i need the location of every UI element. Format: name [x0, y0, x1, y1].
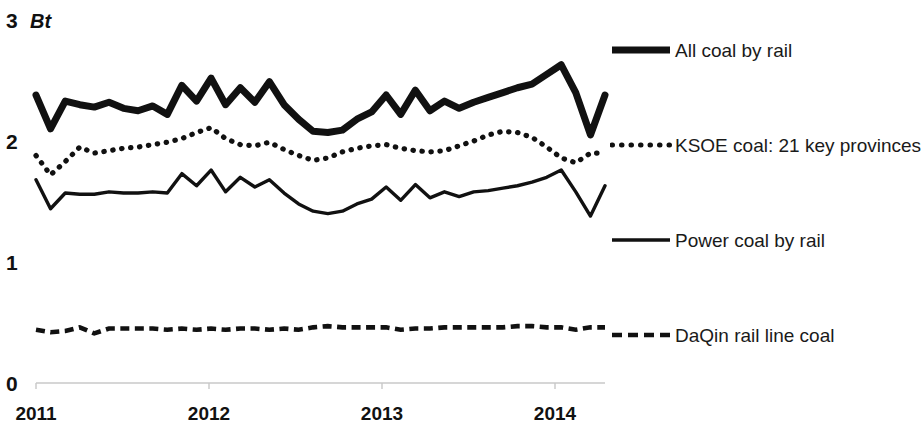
legend-item-daqin-rail-line-coal: DaQin rail line coal	[610, 323, 834, 347]
plot-area	[0, 0, 921, 428]
legend-swatch-solid-thin-icon	[610, 230, 672, 250]
legend-item-ksoe-coal: KSOE coal: 21 key provinces	[610, 133, 921, 157]
series-line-all-coal-by-rail	[36, 65, 605, 135]
legend-swatch-dashed-icon	[610, 325, 672, 345]
legend-label-daqin-rail-line-coal: DaQin rail line coal	[672, 326, 834, 345]
series-line-daqin-rail-line-coal	[36, 326, 605, 333]
x-axis-line-group	[36, 383, 605, 389]
legend-label-ksoe-coal: KSOE coal: 21 key provinces	[672, 136, 921, 155]
data-series-layer	[36, 65, 605, 334]
legend-swatch-solid-thick-icon	[610, 40, 672, 60]
legend-item-all-coal-by-rail: All coal by rail	[610, 38, 792, 62]
chart-figure: 3 Bt 2 1 0 2011 2012 2013 2014 All coal …	[0, 0, 921, 428]
legend-item-power-coal-by-rail: Power coal by rail	[610, 228, 825, 252]
legend-swatch-dotted-icon	[610, 135, 672, 155]
legend-label-power-coal-by-rail: Power coal by rail	[672, 231, 825, 250]
series-line-power-coal-by-rail	[36, 170, 605, 216]
legend-label-all-coal-by-rail: All coal by rail	[672, 41, 792, 60]
